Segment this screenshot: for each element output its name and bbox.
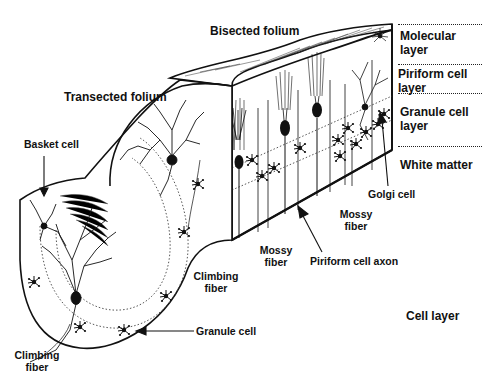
legend-piriform-line1: Piriform cell: [398, 67, 467, 81]
legend-white-matter: White matter: [400, 158, 473, 172]
label-mossy-fiber-left: Mossy fiber: [256, 244, 296, 268]
label-golgi-cell: Golgi cell: [368, 188, 415, 200]
label-granule-cell: Granule cell: [196, 325, 256, 337]
layer-divider-top: [398, 24, 482, 25]
legend-granule-layer: Granule cell layer: [400, 105, 469, 133]
legend-molecular-layer: Molecular layer: [400, 29, 456, 57]
label-basket-cell: Basket cell: [24, 138, 79, 150]
legend-molecular-line2: layer: [400, 43, 456, 57]
layer-divider-molecular: [398, 64, 482, 65]
label-mossy-fiber-right: Mossy fiber: [336, 208, 376, 232]
label-climbing-fiber-mid: Climbing fiber: [192, 270, 240, 294]
legend-granule-line2: layer: [400, 119, 469, 133]
label-climbing-fiber-low: Climbing fiber: [12, 349, 62, 373]
legend-granule-line1: Granule cell: [400, 105, 469, 119]
label-piriform-cell-axon: Piriform cell axon: [310, 255, 398, 267]
label-bisected-folium: Bisected folium: [210, 24, 299, 38]
layer-divider-granule: [398, 146, 482, 147]
label-transected-folium: Transected folium: [64, 90, 130, 104]
legend-white-line1: White matter: [400, 158, 473, 172]
layer-divider-piriform: [398, 93, 482, 94]
legend-molecular-line1: Molecular: [400, 29, 456, 43]
cerebellum-diagram: Molecular layer Piriform cell layer Gran…: [0, 0, 488, 380]
legend-piriform-layer: Piriform cell layer: [398, 67, 467, 95]
label-cell-layer: Cell layer: [406, 309, 459, 323]
